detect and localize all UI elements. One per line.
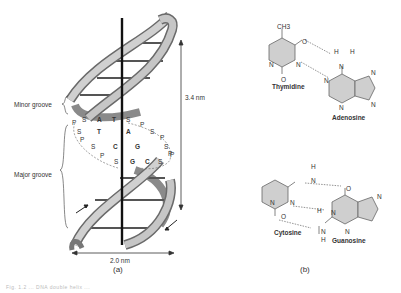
- base-a: A: [126, 128, 131, 135]
- at-hydrogen-bonds: [301, 40, 331, 78]
- atom-label: N: [324, 77, 329, 84]
- pitch-label: 3.4 nm: [185, 94, 205, 101]
- adenosine-ring-5: [355, 76, 375, 100]
- methyl-group-label: CH3: [277, 23, 290, 30]
- sugar-label: S: [158, 158, 162, 165]
- atom-label: N: [371, 69, 376, 76]
- double-helix-illustration: [0, 0, 240, 285]
- sugar-label: S: [164, 143, 168, 150]
- atom-label: N: [290, 199, 295, 206]
- panel-b-base-pairs: [255, 20, 401, 285]
- atom-label: N: [270, 199, 275, 206]
- cytosine-ring: [262, 180, 288, 209]
- atom-label: H: [334, 48, 339, 55]
- diameter-label: 2.0 nm: [110, 257, 130, 264]
- adenosine-label: Adenosine: [332, 114, 365, 121]
- base-g: G: [135, 143, 140, 150]
- atom-label: H: [317, 207, 322, 214]
- atom-label: N: [345, 228, 350, 235]
- atom-label: H: [321, 236, 326, 243]
- atom-label: N: [321, 228, 326, 235]
- sugar-label: S: [126, 116, 130, 123]
- atom-label: N: [331, 209, 336, 216]
- base-g: G: [130, 158, 135, 165]
- phosphate-label: P: [72, 119, 76, 126]
- base-t: T: [112, 116, 116, 123]
- atom-label: N: [269, 61, 274, 68]
- atom-label: O: [346, 185, 351, 192]
- atom-label: N: [377, 193, 382, 200]
- atom-label: N: [296, 61, 301, 68]
- thymidine-label: Thymidine: [272, 83, 305, 90]
- base-c: C: [145, 158, 150, 165]
- base-t: T: [97, 128, 101, 135]
- adenosine-ring-6: [329, 74, 355, 103]
- atom-label: H: [311, 163, 316, 170]
- base-a: A: [97, 116, 102, 123]
- atom-label: N: [339, 104, 344, 111]
- major-groove-label: Major groove: [14, 171, 52, 178]
- phosphate-label: P: [80, 136, 84, 143]
- pitch-dimension-arrow: [179, 40, 183, 210]
- sugar-label: S: [77, 128, 81, 135]
- guanosine-ring-5: [358, 197, 378, 221]
- panel-a-label: (a): [113, 265, 123, 274]
- phosphate-label: P: [140, 121, 144, 128]
- panel-a-helix: [0, 0, 240, 285]
- sugar-label: S: [114, 158, 118, 165]
- atom-label: O: [281, 76, 286, 83]
- atom-label: N: [311, 177, 316, 184]
- atom-label: O: [281, 213, 286, 220]
- sugar-label: S: [82, 116, 86, 123]
- phosphate-label: P: [100, 152, 104, 159]
- sugar-label: S: [150, 128, 154, 135]
- panel-b-label: (b): [300, 265, 310, 274]
- figure-caption: Fig. 1.2 ... DNA double helix ...: [6, 284, 90, 290]
- base-c: C: [113, 143, 118, 150]
- minor-groove-brace: [62, 96, 68, 114]
- phosphate-label: P: [160, 134, 164, 141]
- atom-label: H: [350, 48, 355, 55]
- diameter-dimension-arrow: [72, 251, 174, 255]
- base-pair-structures: [255, 20, 401, 285]
- phosphate-label: P: [168, 150, 172, 157]
- atom-label: O: [302, 38, 307, 45]
- guanosine-label: Guanosine: [332, 237, 366, 244]
- sugar-label: S: [91, 143, 95, 150]
- cytosine-label: Cytosine: [274, 229, 301, 236]
- minor-groove-label: Minor groove: [14, 101, 52, 108]
- atom-label: N: [339, 63, 344, 70]
- major-groove-brace: [60, 125, 68, 228]
- atom-label: N: [371, 101, 376, 108]
